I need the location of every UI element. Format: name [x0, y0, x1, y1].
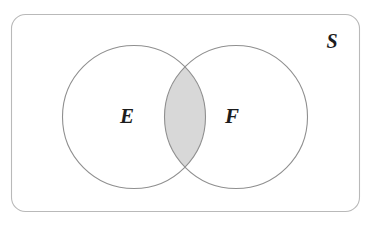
venn-diagram-canvas: E F S — [0, 0, 374, 226]
set-label-e: E — [119, 104, 134, 128]
universal-set-label: S — [326, 30, 337, 52]
set-label-f: F — [224, 104, 239, 128]
venn-diagram-figure: E F S — [0, 0, 374, 226]
